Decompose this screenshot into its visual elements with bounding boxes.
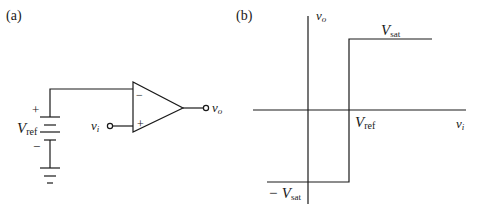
neg-vsat-label: − Vsat	[268, 185, 302, 202]
vref-threshold-label: Vref	[355, 114, 376, 131]
vref-label: Vref	[17, 120, 38, 137]
vref-wire	[50, 89, 133, 117]
output-label: vo	[212, 100, 223, 116]
opamp-noninverting-sign: +	[137, 117, 144, 131]
output-terminal-icon	[203, 105, 208, 110]
panel-b-transfer-curve: (b) vo vi Vsat − Vsat Vref	[236, 8, 466, 204]
input-label: vi	[91, 118, 100, 134]
input-terminal-icon	[107, 123, 112, 128]
panel-b-label: (b)	[236, 8, 253, 24]
vsat-label: Vsat	[381, 22, 401, 39]
panel-a-circuit: (a) + − Vref − + vi vo	[6, 8, 223, 183]
battery-icon	[40, 117, 60, 140]
x-axis-label: vi	[456, 116, 465, 132]
comparator-figure: (a) + − Vref − + vi vo (b)	[0, 0, 478, 214]
ground-icon	[40, 168, 60, 183]
panel-a-label: (a)	[6, 8, 22, 24]
y-axis-label: vo	[316, 8, 327, 24]
battery-minus-sign: −	[33, 139, 40, 154]
opamp-inverting-sign: −	[136, 88, 143, 102]
battery-plus-sign: +	[32, 102, 39, 117]
